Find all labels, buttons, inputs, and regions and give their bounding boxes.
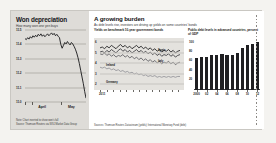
debt-bar — [231, 55, 234, 90]
yields-gridline — [100, 52, 184, 53]
debt-chart-x-axis: 2000020406081012 — [188, 90, 260, 98]
right-chart-title: A growing burden — [94, 15, 260, 22]
yields-x-tick — [178, 90, 179, 92]
yields-x-tick — [152, 90, 153, 92]
yields-x-tick-label: 2011 — [99, 92, 105, 96]
yields-x-tick — [146, 90, 147, 92]
graphic-page: Won depreciation How many won one yen bu… — [0, 0, 276, 143]
debt-x-tick-label: 10 — [246, 92, 249, 96]
debt-bar — [195, 58, 198, 90]
left-x-tick — [25, 102, 26, 105]
yields-chart-x-axis: 2011 — [94, 90, 184, 98]
debt-x-tick-label: 04 — [215, 92, 218, 96]
left-x-tick-label: April — [38, 105, 46, 109]
left-y-tick-label: 11.4 — [16, 42, 21, 46]
yields-chart-plot: 65432SpainItalyIrelandGermany — [94, 38, 184, 90]
yields-chart-heading: Yields on benchmark 10-year government b… — [94, 29, 184, 37]
left-chart-x-axis: AprilMay — [25, 102, 86, 112]
yields-chart-column: Yields on benchmark 10-year government b… — [94, 29, 184, 98]
debt-chart-column: Public debt levels in advanced countries… — [188, 29, 260, 98]
debt-bar — [210, 55, 213, 90]
yields-y-tick-label: 3 — [95, 72, 97, 76]
graphic-card: Won depreciation How many won one yen bu… — [10, 10, 262, 130]
debt-y-tick-label: 40 — [189, 68, 192, 72]
left-chart-subtitle: How many won one yen buys — [16, 24, 85, 28]
yields-series-label: Ireland — [106, 63, 115, 67]
yields-series-label: Spain — [158, 48, 165, 52]
yields-y-tick-label: 4 — [95, 61, 97, 65]
yields-x-tick — [172, 90, 173, 92]
yields-series-label: Germany — [106, 80, 118, 84]
left-y-tick-label: 11.3 — [16, 57, 21, 61]
yields-x-tick — [159, 90, 160, 92]
left-y-tick-label: 11.1 — [16, 86, 21, 90]
left-chart-panel: Won depreciation How many won one yen bu… — [11, 11, 89, 129]
right-chart-row: Yields on benchmark 10-year government b… — [94, 29, 260, 98]
right-chart-source: Sources: Thomson Reuters Datastream (yie… — [94, 124, 260, 127]
yields-y-tick-label: 6 — [95, 40, 97, 44]
debt-chart-heading: Public debt levels in advanced countries… — [188, 29, 260, 37]
yields-gridline — [100, 73, 184, 74]
debt-bar — [241, 48, 244, 90]
debt-x-tick-label: 06 — [225, 92, 228, 96]
page-divider-dotted-line — [256, 15, 257, 125]
left-x-tick-label: May — [68, 105, 75, 109]
left-chart-line — [25, 30, 86, 102]
right-chart-subtitle: As debt levels rise, investors are drivi… — [94, 23, 260, 27]
yields-x-tick — [113, 90, 114, 92]
yields-gridline — [100, 42, 184, 43]
yields-x-tick — [120, 90, 121, 92]
debt-y-tick-label: 60 — [189, 58, 192, 62]
debt-bar — [205, 57, 208, 90]
debt-bar — [215, 55, 218, 90]
left-chart-source: Source: Thomson Reuters via WSJ Market D… — [16, 123, 86, 126]
yields-y-tick-label: 5 — [95, 51, 97, 55]
yields-series-label: Italy — [158, 59, 163, 63]
debt-y-tick-label: 100 — [189, 40, 194, 44]
left-chart-plot: 11.511.411.311.211.111.0 AprilMay — [16, 30, 86, 102]
left-y-tick-label: 11.0 — [16, 100, 21, 104]
left-y-tick-label: 11.5 — [16, 28, 21, 32]
yields-y-tick-label: 2 — [95, 82, 97, 86]
debt-bar — [236, 53, 239, 90]
debt-y-tick-label: 80 — [189, 49, 192, 53]
yields-x-tick — [139, 90, 140, 92]
left-x-tick — [61, 102, 62, 105]
debt-bar — [220, 54, 223, 90]
left-chart-title: Won depreciation — [16, 16, 85, 23]
yields-x-tick — [133, 90, 134, 92]
debt-x-tick-label: 02 — [205, 92, 208, 96]
left-chart-y-axis: 11.511.411.311.211.111.0 — [16, 30, 25, 102]
debt-bar — [225, 55, 228, 90]
debt-chart-plot: 10080604020 — [188, 38, 260, 90]
yields-x-tick — [126, 90, 127, 92]
debt-x-tick-label: 2000 — [193, 92, 199, 96]
right-chart-panel: A growing burden As debt levels rise, in… — [89, 11, 264, 129]
left-x-tick — [32, 102, 33, 105]
debt-bar — [246, 45, 249, 90]
debt-x-tick-label: 08 — [236, 92, 239, 96]
left-y-tick-label: 11.2 — [16, 71, 21, 75]
debt-bar — [251, 44, 254, 90]
left-chart-footnote: Note: Chart inverted to show won's fall … — [16, 119, 86, 126]
debt-bar — [200, 57, 203, 90]
yields-x-tick — [165, 90, 166, 92]
debt-y-tick-label: 20 — [189, 77, 192, 81]
yields-x-tick — [107, 90, 108, 92]
